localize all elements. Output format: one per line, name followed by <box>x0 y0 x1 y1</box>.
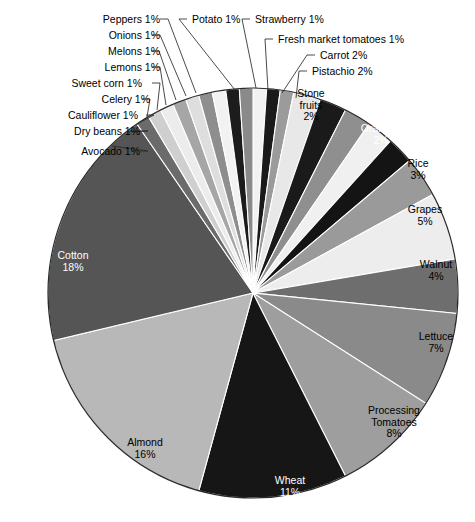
slice-label-line: 7% <box>410 343 462 355</box>
slice-label-line: 5% <box>399 216 451 228</box>
slice-label-line: 16% <box>119 449 171 461</box>
callout-label-freshtom: Fresh market tomatoes 1% <box>278 34 404 46</box>
slice-label-line: Oranges <box>350 123 412 135</box>
slice-label-oranges: Oranges2% <box>350 123 412 146</box>
pie-chart: Peppers 1%Onions 1%Melons 1%Lemons 1%Swe… <box>0 0 475 522</box>
slice-label-line: 4% <box>411 271 461 283</box>
callout-label-onions: Onions 1% <box>109 30 160 42</box>
slice-label-line: Cotton <box>48 250 98 262</box>
callout-label-strawberry: Strawberry 1% <box>255 14 324 26</box>
callout-label-drybeans: Dry beans 1% <box>74 126 140 138</box>
slice-label-line: Walnut <box>411 259 461 271</box>
slice-label-rice: Rice3% <box>398 158 438 181</box>
callout-label-potato: Potato 1% <box>192 14 240 26</box>
slice-label-line: Processing <box>357 405 431 417</box>
callout-label-avocado: Avocado 1% <box>81 146 140 158</box>
slice-label-line: 2% <box>281 111 341 123</box>
slice-label-line: Almond <box>119 437 171 449</box>
callout-label-celery: Celery 1% <box>102 94 150 106</box>
slice-label-line: 3% <box>398 170 438 182</box>
slice-label-line: Stone <box>281 88 341 100</box>
slice-label-stone-fruits: Stonefruits2% <box>281 88 341 123</box>
leader-line-peppers <box>160 19 196 93</box>
slice-label-line: Rice <box>398 158 438 170</box>
slice-label-cotton: Cotton18% <box>48 250 98 273</box>
slice-label-line: 2% <box>350 135 412 147</box>
slice-label-line: 8% <box>357 428 431 440</box>
slice-label-walnut: Walnut4% <box>411 259 461 282</box>
leader-line-freshtom <box>265 39 273 90</box>
slice-label-almond: Almond16% <box>119 437 171 460</box>
callout-label-sweetcorn: Sweet corn 1% <box>71 78 142 90</box>
slice-label-lettuce: Lettuce7% <box>410 331 462 354</box>
leader-line-melons <box>151 51 176 100</box>
slice-label-line: Lettuce <box>410 331 462 343</box>
callout-label-pistachio: Pistachio 2% <box>312 66 373 78</box>
callout-label-carrot: Carrot 2% <box>320 50 367 62</box>
leader-line-sweetcorn <box>152 83 160 110</box>
slice-label-line: Wheat <box>267 475 313 487</box>
slice-label-line: Grapes <box>399 204 451 216</box>
slice-label-wheat: Wheat11% <box>267 475 313 498</box>
slice-label-proc-tomato: ProcessingTomatoes8% <box>357 405 431 440</box>
leader-line-potato <box>179 19 235 90</box>
callout-label-melons: Melons 1% <box>108 46 160 58</box>
leader-line-strawberry <box>242 19 256 88</box>
callout-label-peppers: Peppers 1% <box>103 14 160 26</box>
callout-label-lemons: Lemons 1% <box>105 62 160 74</box>
callout-label-cauliflwr: Cauliflower 1% <box>68 110 138 122</box>
slice-label-line: 18% <box>48 262 98 274</box>
slice-label-grapes: Grapes5% <box>399 204 451 227</box>
slice-label-line: 11% <box>267 487 313 499</box>
